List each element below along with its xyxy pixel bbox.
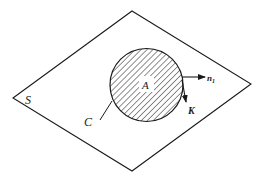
- label-a: A: [141, 79, 149, 91]
- label-k: K: [187, 105, 196, 116]
- label-s: S: [25, 93, 31, 107]
- boundary-c-leader: [100, 101, 112, 120]
- label-n1-subscript: 1: [212, 78, 215, 84]
- label-c: C: [84, 115, 93, 129]
- label-n1: n1: [207, 73, 215, 84]
- surface-region-diagram: S A C n1 K: [0, 0, 258, 179]
